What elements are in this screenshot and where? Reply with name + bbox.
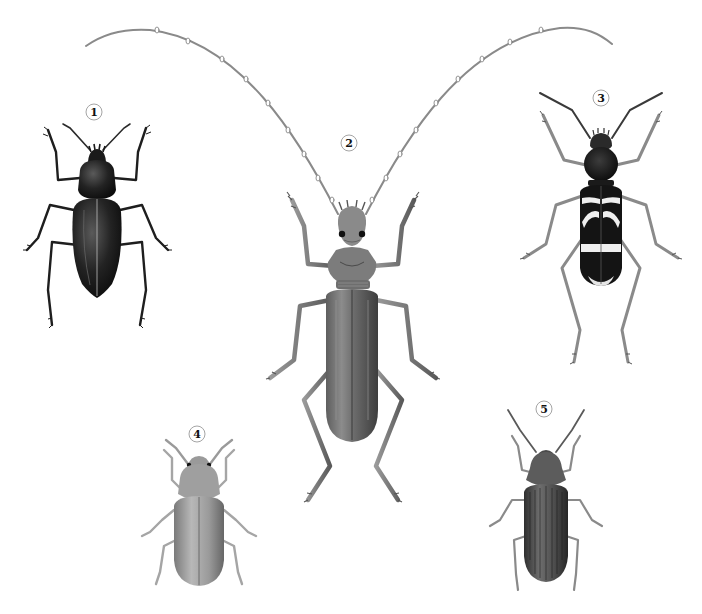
head [338, 200, 366, 246]
specimen-3-wasp-beetle [520, 93, 682, 364]
beetle-illustration-plate: 1 2 3 4 5 [0, 0, 702, 614]
label-2-text: 2 [345, 137, 353, 150]
label-4-text: 4 [193, 428, 201, 441]
pronotum [526, 452, 566, 486]
specimen-2-longhorn-beetle [86, 27, 612, 502]
label-1: 1 [86, 104, 102, 120]
specimen-5-striate-beetle [490, 410, 602, 590]
specimen-4-pale-beetle [142, 440, 256, 586]
antennae [86, 27, 612, 214]
label-2: 2 [341, 135, 357, 151]
label-4: 4 [189, 426, 205, 442]
pronotum [584, 147, 618, 181]
label-5-text: 5 [540, 403, 548, 416]
elytra [580, 185, 622, 286]
pronotum [328, 247, 377, 282]
specimen-1-ground-beetle [23, 124, 172, 328]
pronotum [178, 464, 220, 500]
label-5: 5 [536, 401, 552, 417]
label-1-text: 1 [90, 106, 98, 119]
eye-left [339, 231, 345, 237]
collar [336, 280, 370, 289]
label-3-text: 3 [597, 92, 605, 105]
label-3: 3 [593, 90, 609, 106]
pronotum [78, 160, 116, 199]
eye-right [359, 231, 365, 237]
antennae [63, 124, 130, 150]
